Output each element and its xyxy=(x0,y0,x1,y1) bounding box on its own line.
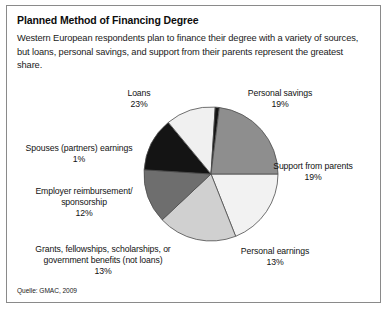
pie-label-support-from-parents: Support from parents 19% xyxy=(252,161,374,183)
pie-label-personal-savings: Personal savings 19% xyxy=(225,88,335,110)
pie-label-personal-earnings: Personal earnings 13% xyxy=(223,246,327,268)
pie-label-loans: Loans 23% xyxy=(103,88,175,110)
pie-label-spouses-earnings: Spouses (partners) earnings 1% xyxy=(15,143,143,165)
pie-label-employer-reimbursement: Employer reimbursement/ sponsorship 12% xyxy=(25,186,143,220)
chart-figure: Planned Method of Financing Degree Weste… xyxy=(6,5,381,303)
source-attribution: Quelle: GMAC, 2009 xyxy=(17,287,77,294)
pie-label-grants: Grants, fellowships, scholarships, or go… xyxy=(25,244,181,278)
